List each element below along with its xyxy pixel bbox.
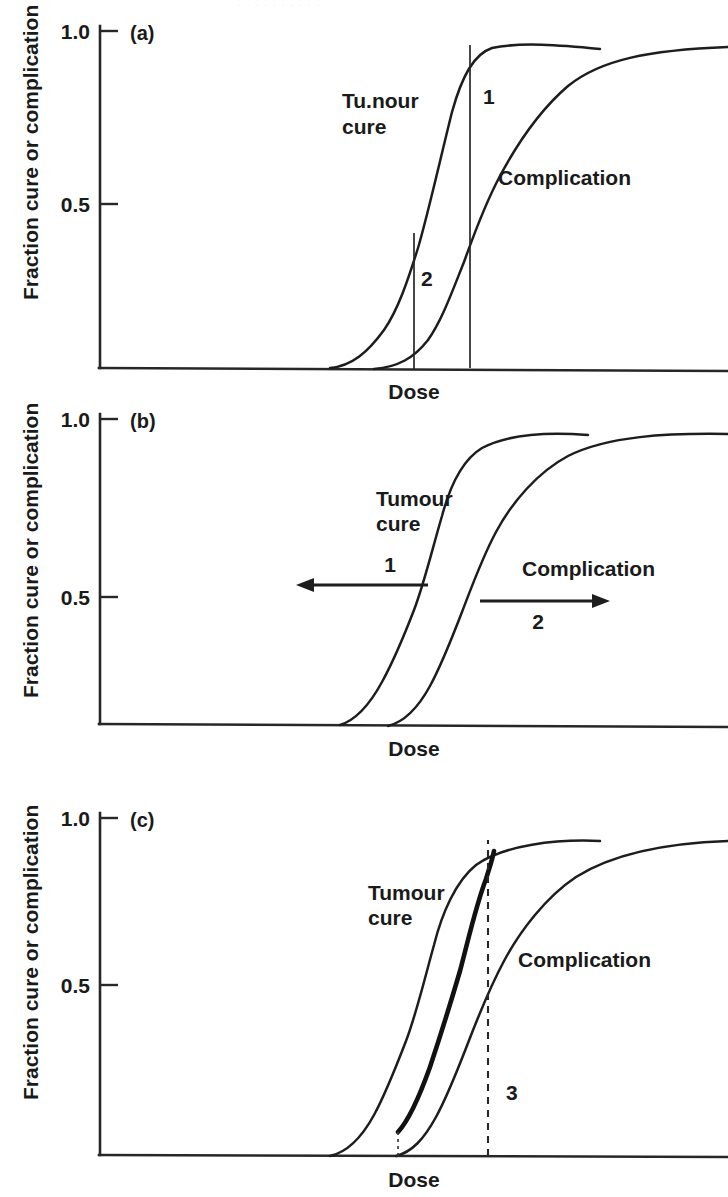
- panel-a-annotation-2: 2: [421, 267, 433, 290]
- panel-b-arrow-1-head: [296, 578, 314, 592]
- panel-b-tumour-label-line1: Tumour: [376, 487, 453, 510]
- panel-b-tick-label-0.5: 0.5: [61, 586, 91, 609]
- panel-a-complication-label: Complication: [498, 166, 631, 189]
- panel-a-letter: (a): [130, 22, 154, 44]
- panel-c-letter: (c): [130, 809, 154, 831]
- panel-a-tumour-label-line1: Tu.nour: [342, 89, 419, 112]
- panel-c-x-axis-label: Dose: [388, 1168, 439, 1191]
- panel-c: Fraction cure or complication 1.0 0.5 (c…: [0, 795, 728, 1197]
- panel-b-annotation-1: 1: [384, 553, 396, 576]
- panel-c-tumour-label-line2: cure: [368, 906, 412, 929]
- panel-c-tick-label-0.5: 0.5: [61, 974, 91, 997]
- panel-a-annotation-1: 1: [483, 85, 495, 108]
- panel-b-x-axis-label: Dose: [388, 737, 439, 760]
- panel-c-y-axis-label: Fraction cure or complication: [19, 805, 42, 1100]
- panel-a: Fraction cure or complication 1.0 0.5 (a…: [0, 0, 728, 400]
- panel-b-tick-label-1.0: 1.0: [61, 408, 90, 431]
- panel-c-x-axis: [99, 1155, 728, 1157]
- panel-b-y-axis-label: Fraction cure or complication: [19, 403, 42, 698]
- panel-c-tick-label-1.0: 1.0: [61, 807, 90, 830]
- panel-a-complication-curve: [374, 47, 728, 369]
- panel-c-complication-label: Complication: [518, 948, 651, 971]
- figure-root: · · · · · · · · · · Fraction cure or com…: [0, 0, 728, 1197]
- panel-b-x-axis: [99, 724, 728, 727]
- panel-b-complication-label: Complication: [522, 557, 655, 580]
- panel-c-annotation-3: 3: [506, 1081, 518, 1104]
- panel-a-tick-label-1.0: 1.0: [61, 20, 90, 43]
- panel-b-annotation-2: 2: [532, 610, 544, 633]
- panel-c-complication-curve: [396, 841, 728, 1156]
- panel-b-arrow-2-head: [592, 594, 610, 608]
- panel-b-tumour-label-line2: cure: [376, 512, 420, 535]
- panel-b: Fraction cure or complication 1.0 0.5 (b…: [0, 398, 728, 798]
- panel-a-x-axis-label: Dose: [388, 380, 439, 400]
- panel-a-tumour-label-line2: cure: [342, 115, 386, 138]
- panel-a-tick-label-0.5: 0.5: [61, 193, 91, 216]
- panel-a-y-axis-label: Fraction cure or complication: [19, 5, 42, 300]
- panel-b-letter: (b): [130, 410, 156, 432]
- panel-c-tumour-label-line1: Tumour: [368, 881, 445, 904]
